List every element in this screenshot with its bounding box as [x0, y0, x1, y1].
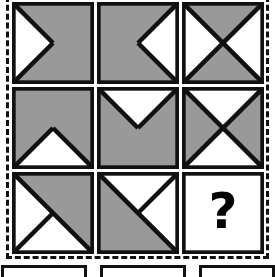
answer-option-3[interactable] — [199, 265, 275, 277]
cell-r1c2[interactable] — [97, 2, 179, 84]
cell-r2c1[interactable] — [12, 87, 94, 169]
cell-r3c2-graphic — [97, 172, 179, 254]
cell-r3c2[interactable] — [97, 172, 179, 254]
answer-option-2[interactable] — [100, 265, 186, 277]
answer-options-row — [0, 265, 275, 275]
cell-r1c2-graphic — [97, 2, 179, 84]
question-mark-label: ? — [182, 172, 264, 254]
cell-r2c1-graphic — [12, 87, 94, 169]
answer-option-1[interactable] — [1, 265, 87, 277]
cell-r1c1-graphic — [12, 2, 94, 84]
cell-missing-answer[interactable]: ? — [182, 172, 264, 254]
cell-r2c2-graphic — [97, 87, 179, 169]
cell-r1c3-graphic — [182, 2, 264, 84]
cell-r2c3-graphic — [182, 87, 264, 169]
cell-r3c1-graphic — [12, 172, 94, 254]
cell-r2c2[interactable] — [97, 87, 179, 169]
matrix-grid: ? — [12, 2, 264, 254]
cell-r1c1[interactable] — [12, 2, 94, 84]
cell-r2c3[interactable] — [182, 87, 264, 169]
cell-r1c3[interactable] — [182, 2, 264, 84]
cell-r3c1[interactable] — [12, 172, 94, 254]
